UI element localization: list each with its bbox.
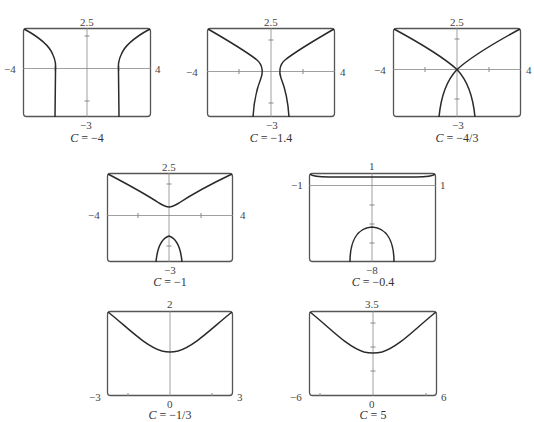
p2-ymax-label: 2.5 bbox=[264, 17, 278, 28]
p5-xmin-label: −1 bbox=[291, 180, 303, 191]
p7-xmin-label: −6 bbox=[290, 392, 302, 403]
p6-xmax-label: 3 bbox=[237, 392, 243, 403]
p5-xmax-label: 1 bbox=[440, 180, 446, 191]
plot-area bbox=[107, 173, 233, 262]
p5-caption: C = −0.4 bbox=[309, 276, 437, 289]
p6-caption: C = −1/3 bbox=[106, 409, 234, 422]
p2-xmin-label: −4 bbox=[186, 67, 198, 78]
plot-area bbox=[309, 311, 437, 396]
p4-xmax-label: 4 bbox=[240, 210, 246, 221]
plot-area bbox=[107, 311, 233, 396]
p3-xmax-label: 4 bbox=[526, 65, 532, 76]
p3-ymax-label: 2.5 bbox=[450, 17, 464, 28]
p4-caption: C = −1 bbox=[106, 276, 234, 289]
plot-panel-c-minus-4 bbox=[23, 28, 151, 117]
p1-xmin-label: −4 bbox=[4, 64, 16, 75]
plot-area bbox=[393, 28, 521, 117]
plot-panel-c-minus-1-3 bbox=[107, 311, 233, 396]
plot-panel-c-5 bbox=[309, 311, 437, 396]
p6-ymax-label: 2 bbox=[167, 299, 173, 310]
plot-area bbox=[309, 173, 436, 262]
p5-ymax-label: 1 bbox=[369, 161, 375, 172]
p6-xmin-label: −3 bbox=[89, 392, 101, 403]
p4-xmin-label: −4 bbox=[88, 210, 100, 221]
p1-caption: C = −4 bbox=[23, 132, 151, 145]
plot-panel-c-minus-0.4 bbox=[309, 173, 436, 262]
plot-area bbox=[23, 28, 151, 117]
p7-caption: C = 5 bbox=[309, 409, 437, 422]
p2-caption: C = −1.4 bbox=[207, 132, 335, 145]
plot-panel-c-minus-1.4 bbox=[207, 28, 335, 117]
plot-panel-c-minus-1 bbox=[107, 173, 233, 262]
p2-ymin-label: −3 bbox=[266, 120, 278, 131]
p4-ymax-label: 2.5 bbox=[162, 162, 176, 173]
p1-xmax-label: 4 bbox=[155, 64, 161, 75]
p3-caption: C = −4/3 bbox=[393, 132, 521, 145]
p3-xmin-label: −4 bbox=[374, 65, 386, 76]
plot-panel-c-minus-4-3 bbox=[393, 28, 521, 117]
p1-ymin-label: −3 bbox=[80, 120, 92, 131]
p3-ymin-label: −3 bbox=[452, 120, 464, 131]
plot-area bbox=[207, 28, 335, 117]
p7-ymax-label: 3.5 bbox=[365, 299, 379, 310]
p2-xmax-label: 4 bbox=[340, 67, 346, 78]
p1-ymax-label: 2.5 bbox=[80, 17, 94, 28]
p7-xmax-label: 6 bbox=[441, 392, 447, 403]
